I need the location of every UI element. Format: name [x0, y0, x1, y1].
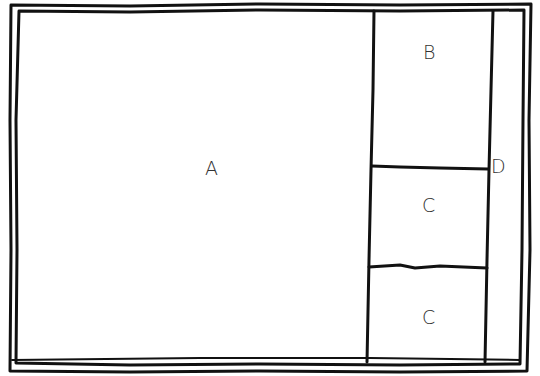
- region-c1-label: C: [422, 196, 435, 215]
- divider-a-b: [367, 11, 374, 362]
- wireframe-diagram: [0, 0, 540, 376]
- divider-c-c: [369, 265, 487, 268]
- divider-b-c: [372, 166, 488, 169]
- inner-frame: [16, 10, 524, 365]
- region-c2-label: C: [422, 308, 435, 327]
- region-a-label: A: [205, 159, 218, 178]
- divider-bc-d: [485, 11, 493, 362]
- region-b-label: B: [423, 43, 435, 62]
- region-d-label: D: [491, 157, 506, 176]
- outer-frame: [10, 4, 531, 372]
